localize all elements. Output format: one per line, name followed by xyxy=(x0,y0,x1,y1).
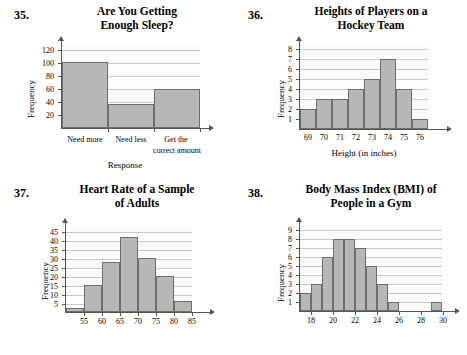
bar-30 xyxy=(431,302,442,311)
x-tick xyxy=(154,128,155,132)
x-tick-label: 18 xyxy=(299,316,323,325)
bar-73 xyxy=(364,79,380,129)
y-axis-line-35 xyxy=(61,41,62,128)
x-tick-label: Need more xyxy=(62,135,108,144)
x-tick xyxy=(108,128,109,132)
x-tick-label: 85 xyxy=(180,317,204,326)
x-tick-label: Get the xyxy=(152,135,200,144)
x-tick xyxy=(443,311,444,315)
y-axis-line-37 xyxy=(65,223,66,312)
y-tick-label: 120 xyxy=(36,47,54,55)
bar-76 xyxy=(412,119,428,129)
gridline xyxy=(62,50,200,51)
y-tick-label: 100 xyxy=(36,60,54,68)
y-tick-label: 45 xyxy=(44,229,58,237)
x-tick-label: 28 xyxy=(409,316,433,325)
bar-71 xyxy=(332,99,348,129)
x-tick xyxy=(120,312,121,316)
chart-title-35: Are You Getting Enough Sleep? xyxy=(44,5,230,32)
bar-correct-amount xyxy=(154,89,200,128)
x-tick xyxy=(377,311,378,315)
x-axis-arrow-38 xyxy=(455,308,460,314)
x-axis-arrow-36 xyxy=(447,126,452,132)
y-tick-label: 6 xyxy=(282,254,292,262)
y-tick-label: 10 xyxy=(44,292,58,300)
bar-72 xyxy=(348,89,364,129)
x-tick-label: Need less xyxy=(108,135,154,144)
x-tick xyxy=(200,128,201,132)
x-axis-line-36 xyxy=(299,129,447,130)
gridline xyxy=(300,248,442,249)
bar-18 xyxy=(300,293,311,311)
x-axis-arrow-37 xyxy=(210,309,215,315)
plot-area-37 xyxy=(66,226,192,312)
y-axis-title-35: Frequency xyxy=(26,80,36,118)
y-tick-label: 4 xyxy=(282,272,292,280)
bar-22 xyxy=(344,239,355,311)
chart-title-37: Heart Rate of a Sample of Adults xyxy=(44,183,230,210)
chart-title-37-line2: of Adults xyxy=(115,197,159,209)
y-tick-label: 1 xyxy=(282,116,292,124)
y-tick-label: 5 xyxy=(282,76,292,84)
bar-21 xyxy=(333,239,344,311)
y-tick-label: 7 xyxy=(282,245,292,253)
chart-panel-37: 37. Heart Rate of a Sample of Adults Fre… xyxy=(0,178,233,355)
y-axis-line-36 xyxy=(299,41,300,129)
x-tick-label: 26 xyxy=(387,316,411,325)
y-axis-arrow-38 xyxy=(296,217,302,222)
bar-need-more xyxy=(62,62,108,128)
bar-65 xyxy=(102,262,120,312)
x-tick xyxy=(138,312,139,316)
plot-area-35 xyxy=(62,44,200,128)
x-tick-label: 24 xyxy=(365,316,389,325)
question-number-36: 36. xyxy=(248,8,263,23)
gridline xyxy=(300,49,428,50)
y-tick-label: 8 xyxy=(282,236,292,244)
bar-80 xyxy=(156,276,174,312)
gridline xyxy=(66,232,192,233)
bar-85 xyxy=(174,301,192,312)
gridline xyxy=(300,239,442,240)
x-axis-line-35 xyxy=(61,128,209,129)
bar-23 xyxy=(355,248,366,311)
y-axis-arrow-35 xyxy=(58,36,64,41)
x-axis-title-36: Height (in inches) xyxy=(304,148,424,158)
x-axis-title-35: Response xyxy=(90,160,160,170)
y-tick-label: 30 xyxy=(44,256,58,264)
y-axis-arrow-37 xyxy=(62,218,68,223)
chart-title-35-line2: Enough Sleep? xyxy=(100,19,173,31)
y-tick-label: 5 xyxy=(282,263,292,271)
y-tick-label: 80 xyxy=(36,73,54,81)
x-tick xyxy=(333,311,334,315)
question-number-37: 37. xyxy=(14,186,29,201)
bar-74 xyxy=(380,59,396,129)
chart-panel-36: 36. Heights of Players on a Hockey Team … xyxy=(234,0,467,177)
x-tick xyxy=(192,312,193,316)
chart-title-36-line1: Heights of Players on a xyxy=(314,5,427,17)
chart-title-35-line1: Are You Getting xyxy=(97,5,177,17)
chart-title-37-line1: Heart Rate of a Sample xyxy=(80,183,195,195)
y-tick-label: 20 xyxy=(44,274,58,282)
chart-title-38-line2: People in a Gym xyxy=(331,197,412,209)
y-axis-arrow-36 xyxy=(296,36,302,41)
gridline xyxy=(300,69,428,70)
x-tick-label: correct amount xyxy=(144,146,210,155)
x-tick xyxy=(84,312,85,316)
chart-panel-35: 35. Are You Getting Enough Sleep? Freque… xyxy=(0,0,233,177)
gridline xyxy=(300,230,442,231)
bar-75 xyxy=(138,258,156,312)
bar-25 xyxy=(377,284,388,311)
bar-20 xyxy=(322,257,333,311)
x-tick-label: 76 xyxy=(404,133,436,142)
gridline xyxy=(300,59,428,60)
bar-19 xyxy=(311,284,322,311)
plot-area-38 xyxy=(300,225,442,311)
y-tick-label: 3 xyxy=(282,281,292,289)
x-tick xyxy=(311,311,312,315)
y-tick-label: 25 xyxy=(44,265,58,273)
chart-title-36: Heights of Players on a Hockey Team xyxy=(278,5,464,32)
y-tick-label: 7 xyxy=(282,56,292,64)
chart-panel-38: 38. Body Mass Index (BMI) of People in a… xyxy=(234,178,467,355)
x-tick xyxy=(156,312,157,316)
worksheet-page: 35. Are You Getting Enough Sleep? Freque… xyxy=(0,0,467,355)
